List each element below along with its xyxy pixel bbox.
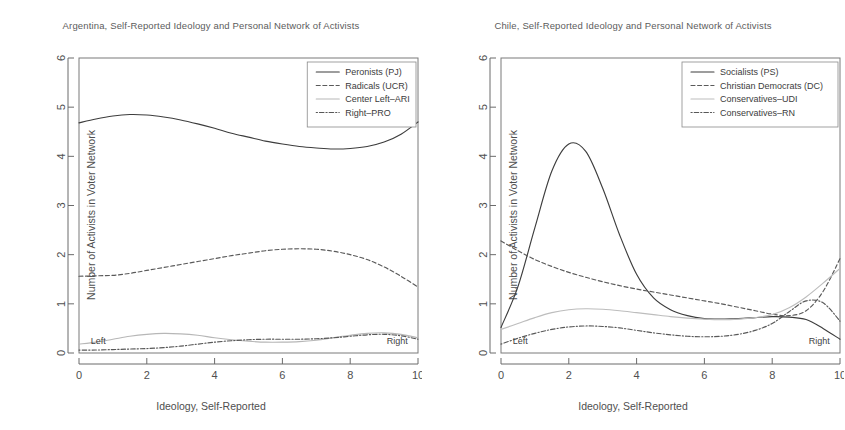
legend-label-3: Center Left–ARI xyxy=(345,94,410,104)
series-line-3 xyxy=(501,268,840,329)
y-tick-label: 5 xyxy=(477,104,489,110)
legend-label-4: Conservatives–RN xyxy=(720,108,795,118)
y-tick-label: 6 xyxy=(477,55,489,61)
x-tick-label: 8 xyxy=(769,369,775,381)
y-tick-label: 3 xyxy=(55,202,67,208)
legend-label-3: Conservatives–UDI xyxy=(720,94,798,104)
y-tick-label: 3 xyxy=(477,202,489,208)
x-tick-label: 10 xyxy=(834,369,844,381)
x-tick-label: 2 xyxy=(144,369,150,381)
x-tick-label: 0 xyxy=(498,369,504,381)
legend-label-2: Radicals (UCR) xyxy=(345,81,408,91)
plot-area-chile: 01234560246810LeftRightSocialists (PS)Ch… xyxy=(422,0,844,430)
series-line-2 xyxy=(79,249,418,287)
y-tick-label: 2 xyxy=(477,252,489,258)
legend-label-4: Right–PRO xyxy=(345,108,391,118)
y-tick-label: 0 xyxy=(477,350,489,356)
plot-area-argentina: 01234560246810LeftRightPeronists (PJ)Rad… xyxy=(0,0,422,430)
annotation-left: Left xyxy=(91,336,107,346)
x-tick-label: 10 xyxy=(412,369,422,381)
y-tick-label: 2 xyxy=(55,252,67,258)
y-tick-label: 5 xyxy=(55,104,67,110)
panel-chile: Chile, Self-Reported Ideology and Person… xyxy=(422,0,844,430)
series-line-4 xyxy=(501,300,840,344)
figure-two-panel-chart: Argentina, Self-Reported Ideology and Pe… xyxy=(0,0,845,430)
y-tick-label: 4 xyxy=(477,153,489,159)
legend-label-1: Peronists (PJ) xyxy=(345,67,402,77)
x-tick-label: 4 xyxy=(634,369,640,381)
x-tick-label: 6 xyxy=(701,369,707,381)
x-tick-label: 4 xyxy=(212,369,218,381)
y-tick-label: 1 xyxy=(55,301,67,307)
x-tick-label: 0 xyxy=(76,369,82,381)
y-tick-label: 4 xyxy=(55,153,67,159)
annotation-right: Right xyxy=(387,336,409,346)
annotation-right: Right xyxy=(809,336,831,346)
legend-label-2: Christian Democrats (DC) xyxy=(720,81,823,91)
panel-argentina: Argentina, Self-Reported Ideology and Pe… xyxy=(0,0,422,430)
y-tick-label: 1 xyxy=(477,301,489,307)
series-line-1 xyxy=(501,143,840,339)
x-tick-label: 2 xyxy=(566,369,572,381)
series-line-2 xyxy=(501,241,840,316)
y-tick-label: 6 xyxy=(55,55,67,61)
y-tick-label: 0 xyxy=(55,350,67,356)
x-tick-label: 8 xyxy=(347,369,353,381)
legend-label-1: Socialists (PS) xyxy=(720,67,779,77)
annotation-left: Left xyxy=(513,336,529,346)
x-tick-label: 6 xyxy=(279,369,285,381)
